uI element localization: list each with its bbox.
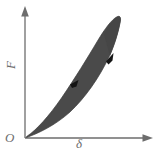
x-axis-label: δ [76, 137, 82, 150]
figure-container: F δ O [0, 0, 156, 158]
chart-canvas [0, 0, 156, 158]
origin-label: O [5, 131, 14, 144]
y-axis-label-text: F [4, 61, 17, 69]
y-axis-arrowhead [21, 6, 29, 17]
y-axis-label: F [4, 48, 17, 56]
x-axis-arrowhead [143, 134, 154, 142]
